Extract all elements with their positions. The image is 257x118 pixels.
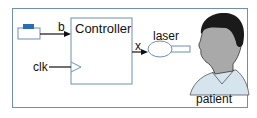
b-signal-label: b [58, 21, 65, 33]
laser-label: laser [153, 30, 179, 42]
button-icon [18, 24, 40, 39]
x-signal-label: x [135, 40, 141, 52]
patient-icon [190, 13, 249, 95]
clk-signal-label: clk [33, 61, 48, 73]
patient-label: patient [196, 93, 232, 105]
b-signal-arrow [40, 31, 71, 37]
laser-icon [148, 41, 190, 57]
controller-label: Controller [75, 22, 131, 35]
